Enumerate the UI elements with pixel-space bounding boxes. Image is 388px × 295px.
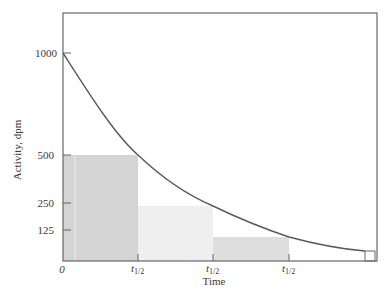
bar-third-halflife [213,237,289,261]
y-axis-label: Activity, dpm [11,119,23,180]
y-tick-125: 125 [38,224,55,236]
x-tick-halflife-3: t1/2 [282,262,295,276]
bar-first-halflife [63,155,138,261]
x-tick-halflife-2: t1/2 [206,262,219,276]
y-tick-500: 500 [38,149,55,161]
decay-chart: 1000 500 250 125 0 t1/2 t1/2 t1/2 Time A… [0,0,388,295]
x-axis-label: Time [203,275,226,287]
x-tick-halflife-1: t1/2 [131,262,144,276]
y-ticks [63,53,71,230]
x-tick-0: 0 [59,263,65,275]
y-tick-250: 250 [38,197,55,209]
y-tick-1000: 1000 [35,47,58,59]
corner-marker [365,251,375,261]
bar-second-halflife [138,206,213,261]
